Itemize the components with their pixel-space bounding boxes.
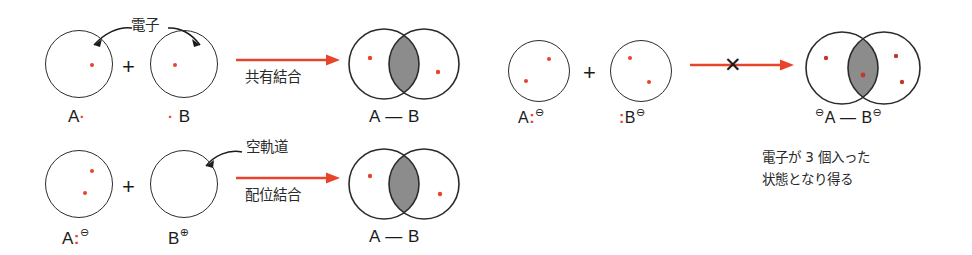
orbital-circle-a-row2 bbox=[45, 150, 113, 218]
charge-symbol-negative-right: ⊖ bbox=[873, 106, 883, 118]
atom-letter-a: A bbox=[369, 227, 380, 246]
electron-dot bbox=[83, 191, 87, 195]
bond-dash: — bbox=[385, 107, 403, 126]
electron-mark: · bbox=[80, 108, 86, 125]
atom-letter: B bbox=[168, 229, 180, 248]
orbital-circle-a-right bbox=[508, 40, 570, 102]
chemistry-bonding-diagram: 電子 + A· · B 共有結合 bbox=[0, 0, 972, 255]
electron-dot bbox=[90, 63, 94, 67]
left-panel-row2: 空軌道 + A:⊖ B⊕ 配位結合 bbox=[0, 128, 486, 255]
product-label-row2: A — B bbox=[369, 228, 420, 245]
product-orbitals-row1 bbox=[348, 28, 468, 102]
reaction-arrow-coordinate bbox=[236, 170, 346, 186]
plus-sign-row2: + bbox=[122, 176, 135, 198]
reaction-blocked-cross-icon: ✕ bbox=[724, 54, 742, 75]
electron-dot bbox=[628, 56, 632, 60]
charge-symbol-positive: ⊕ bbox=[180, 226, 190, 238]
atom-letter-b: B bbox=[408, 107, 420, 126]
atom-letter-b: B bbox=[861, 109, 872, 126]
atom-letter: A bbox=[68, 107, 80, 126]
orbital-circle-b-row2 bbox=[150, 150, 218, 218]
left-panel-row1: 電子 + A· · B 共有結合 bbox=[0, 0, 486, 128]
product-orbitals-right bbox=[804, 30, 930, 106]
caption-line-2: 状態となり得る bbox=[762, 170, 853, 190]
empty-orbital-label: 空軌道 bbox=[246, 140, 288, 155]
electron-dot bbox=[547, 57, 551, 61]
reactant-b-label-row2: B⊕ bbox=[168, 228, 190, 247]
atom-letter: B bbox=[179, 107, 191, 126]
charge-symbol-negative: ⊖ bbox=[535, 106, 545, 118]
reaction-arrow-forbidden bbox=[690, 57, 802, 73]
right-panel: + A:⊖ :B⊖ ✕ bbox=[486, 0, 972, 255]
product-orbitals-row2 bbox=[348, 148, 468, 222]
bond-dash: — bbox=[840, 109, 857, 126]
caption-line-1: 電子が 3 個入った bbox=[762, 148, 870, 168]
atom-letter-b: B bbox=[408, 227, 420, 246]
atom-letter: A bbox=[518, 109, 529, 126]
arrow-label-covalent-bond: 共有結合 bbox=[245, 70, 301, 85]
product-label-right: ⊖A — B⊖ bbox=[815, 108, 882, 126]
atom-letter: B bbox=[625, 109, 636, 126]
reactant-a-label-right: A:⊖ bbox=[518, 108, 545, 126]
electron-mark: · bbox=[168, 108, 174, 125]
reactant-a-label-row1: A· bbox=[68, 108, 85, 125]
atom-letter: A bbox=[62, 229, 74, 248]
electron-dot bbox=[647, 80, 651, 84]
reaction-arrow-covalent bbox=[236, 52, 346, 68]
reactant-a-label-row2: A:⊖ bbox=[62, 228, 90, 247]
atom-letter-a: A bbox=[369, 107, 380, 126]
product-label-row1: A — B bbox=[369, 108, 420, 125]
orbital-circle-a-row1 bbox=[45, 30, 113, 98]
atom-letter-a: A bbox=[825, 109, 835, 126]
bond-dash: — bbox=[385, 227, 403, 246]
plus-sign-right: + bbox=[583, 62, 596, 84]
electron-dot bbox=[173, 63, 177, 67]
charge-symbol-negative-left: ⊖ bbox=[815, 106, 825, 118]
arrow-label-coordinate-bond: 配位結合 bbox=[245, 188, 301, 203]
orbital-circle-b-row1 bbox=[150, 30, 218, 98]
electron-dot bbox=[524, 79, 528, 83]
orbital-circle-b-right bbox=[610, 40, 672, 102]
reactant-b-label-right: :B⊖ bbox=[619, 108, 646, 126]
electron-dot bbox=[90, 169, 94, 173]
electron-annotation-label: 電子 bbox=[131, 18, 159, 33]
charge-symbol-negative: ⊖ bbox=[80, 226, 90, 238]
charge-symbol-negative: ⊖ bbox=[636, 106, 646, 118]
reactant-b-label-row1: · B bbox=[168, 108, 191, 125]
plus-sign-row1: + bbox=[122, 56, 135, 78]
